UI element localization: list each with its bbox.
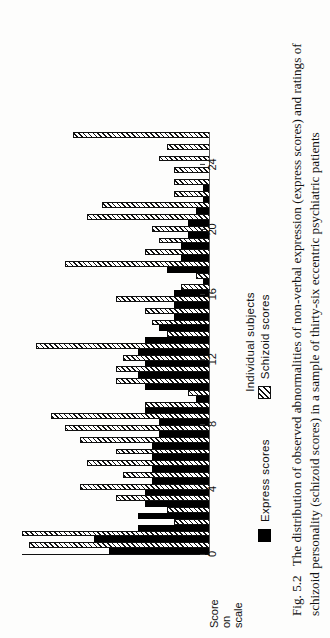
- bar-group: [22, 484, 210, 496]
- axis-tick: 16: [200, 288, 218, 300]
- legend-swatch-schizoid-icon: [258, 386, 271, 399]
- bar-group: [22, 355, 210, 367]
- bar-group: [22, 214, 210, 226]
- bar-group: [22, 331, 210, 343]
- value-axis-line: [22, 554, 210, 555]
- bar-schizoid-scores: [29, 542, 210, 548]
- bar-schizoid-scores: [80, 437, 210, 443]
- bar-group: [22, 308, 210, 320]
- value-axis-label-line-3: scale: [232, 558, 244, 628]
- bar-schizoid-scores: [102, 202, 210, 208]
- bar-group: [22, 367, 210, 379]
- axis-tick: 20: [200, 223, 218, 235]
- bar-group: [22, 402, 210, 414]
- bar-group: [22, 261, 210, 273]
- bar-group: [22, 343, 210, 355]
- value-axis-label: Score on scale: [208, 558, 244, 628]
- axis-tick-label: 0: [206, 551, 218, 557]
- axis-tick-mark: [200, 424, 205, 425]
- figure-caption-text: The distribution of observed abnormaliti…: [289, 43, 322, 616]
- bar-group: [22, 472, 210, 484]
- bar-group: [22, 390, 210, 402]
- bar-group: [22, 449, 210, 461]
- axis-tick: 0: [200, 551, 218, 557]
- legend-item-schizoid: Schizoid scores: [258, 294, 271, 399]
- bar-group: [22, 320, 210, 332]
- bar-chart: 04812162024 Score on scale Individual su…: [22, 130, 240, 630]
- bar-group: [22, 437, 210, 449]
- bar-express-scores: [94, 536, 210, 542]
- category-axis-label: Individual subjects: [244, 130, 256, 554]
- bar-group: [22, 507, 210, 519]
- axis-tick: 4: [200, 486, 218, 492]
- bar-group: [22, 284, 210, 296]
- bar-schizoid-scores: [65, 261, 210, 267]
- bar-schizoid-scores: [73, 132, 210, 138]
- value-axis-label-line-2: on: [220, 558, 232, 628]
- legend-label-schizoid: Schizoid scores: [259, 294, 271, 379]
- axis-tick-label: 8: [206, 421, 218, 427]
- bar-group: [22, 531, 210, 543]
- bar-group: [22, 296, 210, 308]
- bar-schizoid-scores: [65, 425, 210, 431]
- bar-group: [22, 238, 210, 250]
- bar-series-container: [22, 132, 210, 554]
- axis-tick-label: 16: [206, 288, 218, 300]
- bar-group: [22, 179, 210, 191]
- rotated-figure-container: 04812162024 Score on scale Individual su…: [0, 0, 330, 638]
- axis-tick-mark: [200, 489, 205, 490]
- axis-tick-mark: [200, 359, 205, 360]
- bar-schizoid-scores: [51, 413, 210, 419]
- bar-group: [22, 202, 210, 214]
- bar-group: [22, 191, 210, 203]
- bar-group: [22, 156, 210, 168]
- legend-swatch-express-icon: [258, 529, 271, 542]
- axis-tick-mark: [200, 164, 205, 165]
- value-axis-label-line-1: Score: [208, 558, 220, 628]
- axis-tick-mark: [200, 229, 205, 230]
- bar-group: [22, 132, 210, 144]
- axis-tick: 24: [200, 159, 218, 171]
- bar-group: [22, 413, 210, 425]
- bar-group: [22, 167, 210, 179]
- axis-tick-label: 12: [206, 353, 218, 365]
- bar-group: [22, 273, 210, 285]
- bar-schizoid-scores: [87, 214, 210, 220]
- axis-tick: 8: [200, 421, 218, 427]
- bar-group: [22, 425, 210, 437]
- bar-schizoid-scores: [36, 343, 210, 349]
- bar-schizoid-scores: [22, 531, 210, 537]
- bar-group: [22, 460, 210, 472]
- bar-group: [22, 495, 210, 507]
- axis-tick: 12: [200, 353, 218, 365]
- bar-group: [22, 519, 210, 531]
- legend-item-express: Express scores: [258, 439, 271, 542]
- bar-schizoid-scores: [80, 484, 210, 490]
- bar-schizoid-scores: [87, 460, 210, 466]
- legend-label-express: Express scores: [259, 439, 271, 522]
- axis-tick-label: 4: [206, 486, 218, 492]
- axis-tick-label: 24: [206, 159, 218, 171]
- figure-number: Fig. 5.2: [289, 575, 304, 616]
- figure-caption: Fig. 5.2The distribution of observed abn…: [288, 20, 323, 616]
- bar-group: [22, 542, 210, 554]
- axis-tick-mark: [200, 554, 205, 555]
- axis-tick-label: 20: [206, 223, 218, 235]
- bar-group: [22, 378, 210, 390]
- axis-tick-mark: [200, 294, 205, 295]
- figure-page: 04812162024 Score on scale Individual su…: [0, 0, 330, 638]
- chart-legend: Express scores Schizoid scores: [258, 294, 271, 542]
- value-axis-ticks: 04812162024: [196, 132, 218, 554]
- bar-group: [22, 226, 210, 238]
- plot-area: [22, 132, 210, 554]
- bar-group: [22, 249, 210, 261]
- bar-group: [22, 144, 210, 156]
